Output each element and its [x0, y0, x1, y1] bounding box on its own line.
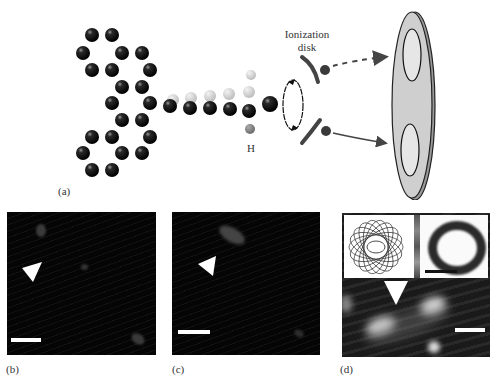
panel-a-schematic [0, 0, 499, 200]
fragment-upper [320, 65, 330, 75]
dashed-trajectory-arrow [333, 57, 385, 66]
scale-bar [11, 338, 41, 342]
arrowhead-marker [198, 256, 220, 278]
panel-label-b: (b) [6, 363, 19, 375]
orbit-loop-arrow-bottom [291, 125, 298, 131]
panel-label-a: (a) [58, 185, 70, 197]
panel-d-image [342, 213, 490, 357]
panel-b-image [7, 212, 156, 355]
inset-ring-image [420, 215, 488, 278]
ionization-disk-label-line2: disk [298, 41, 316, 53]
molecule-atoms [76, 28, 157, 177]
panel-label-c: (c) [172, 363, 184, 375]
detached-atom [262, 96, 278, 112]
solid-trajectory-arrow [333, 133, 385, 143]
inset-orbital-trajectory [344, 215, 414, 278]
faded-atoms [167, 70, 256, 106]
bright-spot [428, 341, 440, 353]
ionization-disk-label: Ionization disk [277, 28, 337, 54]
detector-disk [392, 12, 435, 200]
panel-c-image [172, 212, 320, 355]
figure: Ionization disk H (a) (b) (c) [0, 0, 499, 385]
ionization-disk-lower [302, 120, 320, 143]
hydrogen-atom [245, 124, 255, 134]
hydrogen-label: H [247, 142, 255, 154]
orbit-loop [283, 80, 303, 130]
scale-bar [178, 330, 210, 334]
particle [36, 224, 46, 237]
panel-label-d: (d) [340, 363, 353, 375]
ionization-disk-label-line1: Ionization [285, 28, 330, 40]
fragment-lower [321, 126, 331, 136]
particle [81, 264, 88, 270]
detector-spot-upper [403, 29, 421, 81]
arrowhead-marker [384, 281, 410, 307]
orbital-trajectory-drawing [344, 215, 414, 278]
scale-bar [455, 328, 485, 332]
ionization-disk-upper [302, 57, 318, 82]
detector-spot-lower [401, 124, 419, 176]
arrowhead-marker [22, 262, 44, 284]
ring [428, 221, 486, 275]
inset-scale-bar [425, 270, 457, 273]
